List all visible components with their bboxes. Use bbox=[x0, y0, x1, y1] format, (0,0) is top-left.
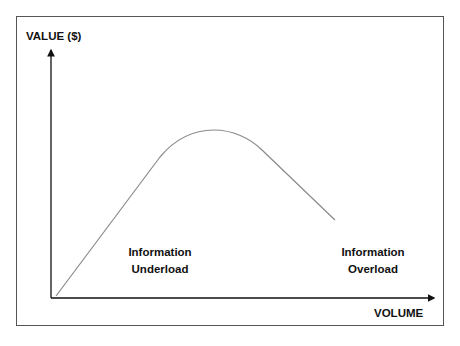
annotation-overload: Information Overload bbox=[318, 244, 428, 278]
x-axis-label: VOLUME bbox=[374, 305, 423, 322]
overload-line1: Information bbox=[318, 244, 428, 261]
overload-line2: Overload bbox=[318, 261, 428, 278]
diagram-plot bbox=[0, 0, 460, 346]
annotation-underload: Information Underload bbox=[100, 244, 220, 278]
underload-line1: Information bbox=[100, 244, 220, 261]
y-axis-label: VALUE ($) bbox=[26, 28, 81, 45]
underload-line2: Underload bbox=[100, 261, 220, 278]
